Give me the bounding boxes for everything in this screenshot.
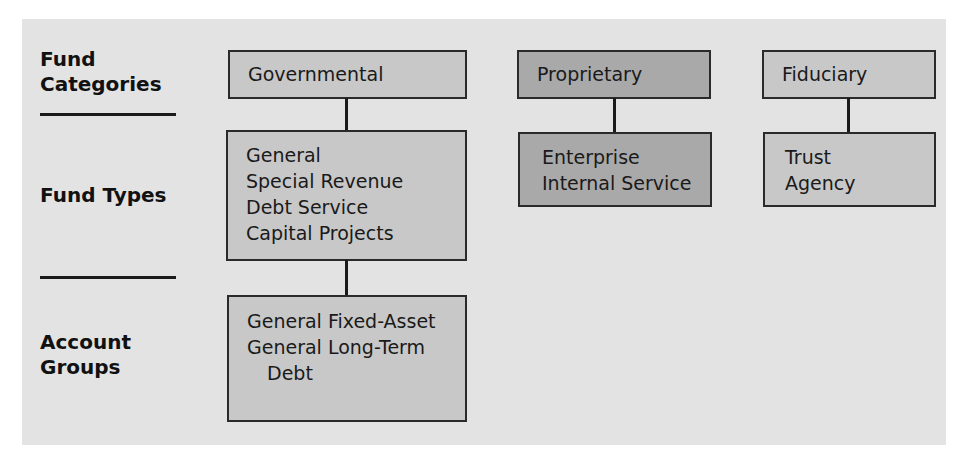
- fund-type-item: Enterprise: [542, 144, 710, 170]
- divider-rule: [40, 113, 176, 116]
- label-line: Account: [40, 330, 131, 355]
- account-group-item: Debt: [247, 360, 465, 386]
- row-label-fund-types: Fund Types: [40, 183, 167, 208]
- label-line: Groups: [40, 355, 131, 380]
- fund-types-governmental: General Special Revenue Debt Service Cap…: [226, 130, 467, 261]
- connector-line: [613, 98, 616, 133]
- fund-type-item: Agency: [785, 170, 934, 196]
- label-line: Categories: [40, 72, 162, 97]
- connector-line: [345, 260, 348, 296]
- fund-type-item: General: [246, 142, 465, 168]
- category-label: Governmental: [248, 61, 465, 87]
- connector-line: [847, 98, 850, 133]
- category-label: Proprietary: [537, 61, 709, 87]
- account-group-item: General Fixed-Asset: [247, 308, 465, 334]
- row-label-account-groups: Account Groups: [40, 330, 131, 380]
- connector-line: [345, 98, 348, 131]
- fund-type-item: Capital Projects: [246, 220, 465, 246]
- account-groups-governmental: General Fixed-Asset General Long-Term De…: [227, 295, 467, 422]
- account-group-item: General Long-Term: [247, 334, 465, 360]
- fund-types-proprietary: Enterprise Internal Service: [518, 132, 712, 207]
- label-line: Fund: [40, 47, 162, 72]
- fund-type-item: Trust: [785, 144, 934, 170]
- fund-type-item: Debt Service: [246, 194, 465, 220]
- category-governmental: Governmental: [228, 50, 467, 99]
- category-proprietary: Proprietary: [517, 50, 711, 99]
- category-fiduciary: Fiduciary: [762, 50, 936, 99]
- fund-types-fiduciary: Trust Agency: [763, 132, 936, 207]
- row-label-fund-categories: Fund Categories: [40, 47, 162, 97]
- fund-type-item: Special Revenue: [246, 168, 465, 194]
- category-label: Fiduciary: [782, 61, 934, 87]
- divider-rule: [40, 276, 176, 279]
- fund-type-item: Internal Service: [542, 170, 710, 196]
- label-line: Fund Types: [40, 183, 167, 208]
